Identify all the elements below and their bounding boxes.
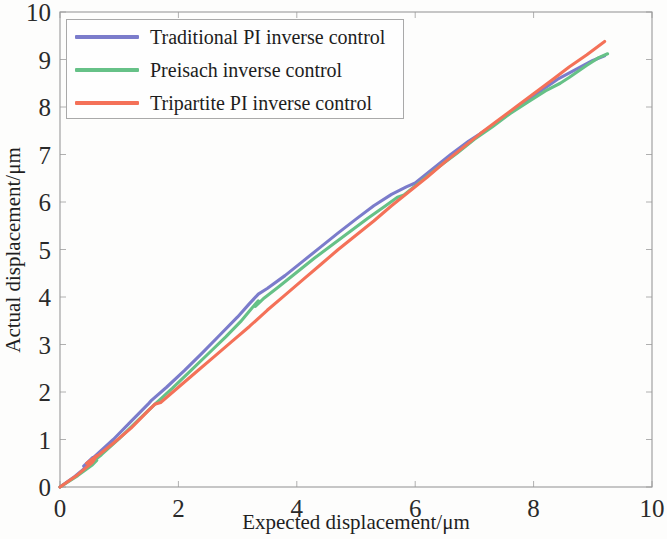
- legend-color-swatch: [75, 68, 139, 72]
- legend-item-label: Traditional PI inverse control: [150, 27, 385, 47]
- y-tick-label: 1: [39, 427, 52, 454]
- legend-item: Preisach inverse control: [67, 53, 403, 86]
- x-tick-label: 2: [172, 495, 185, 522]
- legend-item: Tripartite PI inverse control: [67, 87, 403, 120]
- y-tick-label: 8: [39, 94, 52, 121]
- legend-color-swatch: [75, 35, 139, 39]
- y-tick-label: 10: [26, 0, 51, 26]
- y-tick-labels: 012345678910: [26, 0, 52, 501]
- y-tick-label: 6: [39, 189, 52, 216]
- legend-item-label: Preisach inverse control: [150, 60, 342, 80]
- legend: Traditional PI inverse control Preisach …: [66, 19, 404, 119]
- y-tick-label: 9: [39, 47, 52, 74]
- chart-figure: 0246810 012345678910 Expected displaceme…: [0, 0, 667, 539]
- legend-item-label: Tripartite PI inverse control: [150, 93, 372, 113]
- y-tick-label: 4: [39, 284, 52, 311]
- y-tick-label: 0: [39, 474, 52, 501]
- y-tick-label: 2: [39, 379, 52, 406]
- x-axis-title: Expected displacement/μm: [242, 510, 470, 534]
- y-tick-label: 7: [39, 142, 52, 169]
- x-tick-label: 0: [54, 495, 67, 522]
- y-axis-title: Actual displacement/μm: [1, 147, 25, 352]
- x-tick-label: 8: [527, 495, 540, 522]
- y-tick-label: 3: [39, 332, 52, 359]
- y-tick-label: 5: [39, 237, 52, 264]
- series-line: [60, 56, 605, 487]
- legend-color-swatch: [75, 101, 139, 105]
- legend-item: Traditional PI inverse control: [67, 20, 403, 53]
- x-tick-label: 10: [640, 495, 665, 522]
